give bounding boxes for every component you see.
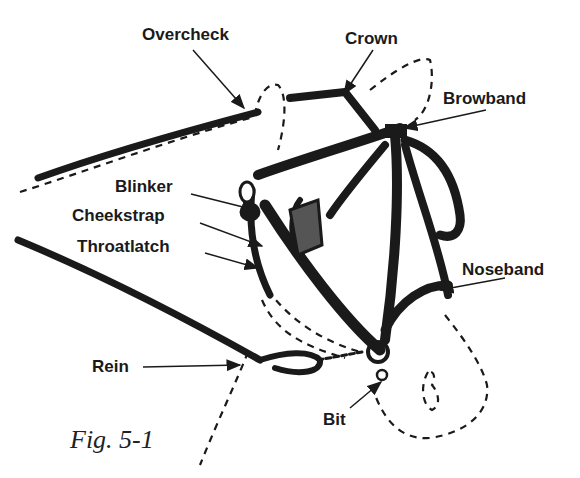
horse-outline [20,59,487,465]
label-bit: Bit [323,411,346,428]
label-browband: Browband [443,90,526,107]
label-throatlatch: Throatlatch [77,238,170,255]
bridle-straps [18,92,460,380]
label-overcheck: Overcheck [142,26,229,43]
label-rein: Rein [92,358,129,375]
label-cheekstrap: Cheekstrap [72,207,165,224]
figure-caption: Fig. 5-1 [70,427,154,453]
bridle-diagram: Overcheck Crown Browband Blinker Cheekst… [0,0,580,478]
label-noseband: Noseband [462,261,544,278]
label-crown: Crown [345,30,398,47]
label-blinker: Blinker [115,178,173,195]
